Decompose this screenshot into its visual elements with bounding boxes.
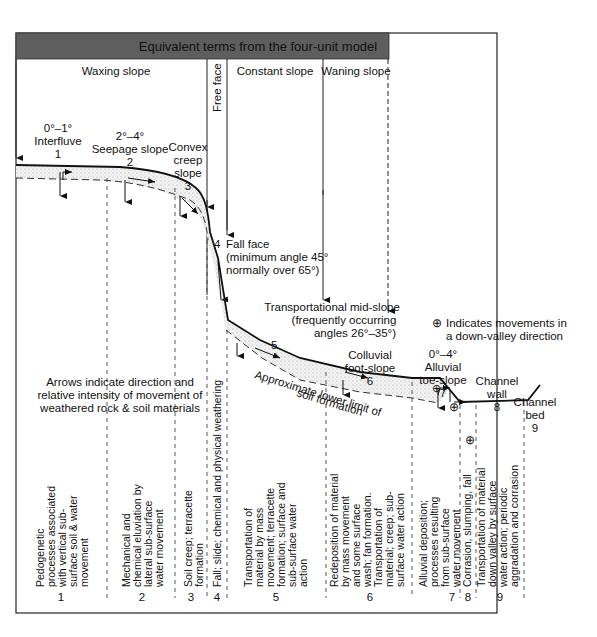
- header-title: Equivalent terms from the four-unit mode…: [139, 39, 378, 54]
- svg-text:Interfluve: Interfluve: [34, 135, 81, 147]
- svg-text:3: 3: [188, 591, 194, 603]
- svg-text:9: 9: [532, 422, 538, 434]
- svg-text:aggradation and corrasion: aggradation and corrasion: [508, 465, 520, 587]
- svg-text:Colluvial: Colluvial: [348, 349, 391, 361]
- svg-text:9: 9: [497, 591, 503, 603]
- svg-text:8: 8: [494, 401, 500, 413]
- svg-text:Arrows indicate direction and: Arrows indicate direction and: [46, 376, 194, 388]
- svg-text:Fall face: Fall face: [226, 238, 269, 250]
- svg-text:toe-slope: toe-slope: [419, 374, 466, 386]
- svg-text:Alluvial: Alluvial: [425, 361, 461, 373]
- svg-text:slope: slope: [174, 167, 202, 179]
- svg-text:2°–4°: 2°–4°: [116, 130, 144, 142]
- svg-text:wall: wall: [486, 388, 507, 400]
- svg-text:creep: creep: [174, 154, 203, 166]
- svg-text:(minimum angle 45°: (minimum angle 45°: [226, 251, 328, 263]
- svg-text:2: 2: [139, 591, 145, 603]
- svg-text:angles 26°–35°): angles 26°–35°): [314, 327, 396, 339]
- svg-text:weathered rock & soil material: weathered rock & soil materials: [39, 402, 200, 414]
- svg-text:surface water action: surface water action: [394, 493, 406, 587]
- svg-text:1: 1: [55, 148, 61, 160]
- svg-text:0°–1°: 0°–1°: [44, 122, 72, 134]
- svg-text:formation: formation: [193, 543, 205, 587]
- header-bar: Equivalent terms from the four-unit mode…: [16, 33, 389, 59]
- down-valley-legend-symbol: ⊕: [432, 317, 442, 329]
- svg-text:4: 4: [214, 591, 221, 603]
- svg-text:(frequently occurring: (frequently occurring: [292, 314, 397, 326]
- unit-numbers: 1 2 3 4 5 6 7 8 9: [58, 591, 503, 603]
- svg-text:5: 5: [273, 591, 279, 603]
- unit-constant-slope: Constant slope: [237, 65, 314, 77]
- svg-text:Convex: Convex: [169, 141, 208, 153]
- svg-text:relative intensity of movement: relative intensity of movement of: [38, 389, 204, 401]
- svg-text:Channel: Channel: [514, 396, 557, 408]
- svg-text:4: 4: [214, 238, 221, 250]
- svg-text:0°–4°: 0°–4°: [429, 348, 457, 360]
- svg-text:a down-valley direction: a down-valley direction: [446, 330, 563, 342]
- svg-text:7: 7: [449, 591, 455, 603]
- svg-text:Transportational mid-slope: Transportational mid-slope: [264, 301, 400, 313]
- svg-text:Channel: Channel: [476, 375, 519, 387]
- svg-text:8: 8: [465, 591, 471, 603]
- svg-text:Corrasion, slumping, fall: Corrasion, slumping, fall: [461, 474, 473, 587]
- svg-text:foot-slope: foot-slope: [345, 362, 396, 374]
- svg-text:6: 6: [367, 591, 373, 603]
- svg-text:2: 2: [127, 156, 133, 168]
- svg-text:3: 3: [185, 180, 191, 192]
- svg-text:6: 6: [367, 375, 373, 387]
- svg-text:1: 1: [58, 591, 64, 603]
- svg-text:bed: bed: [525, 409, 544, 421]
- svg-text:normally over 65°): normally over 65°): [226, 264, 320, 276]
- svg-text:Indicates movements in: Indicates movements in: [446, 317, 567, 329]
- unit-free-face: Free face: [211, 63, 223, 112]
- svg-text:water movement: water movement: [153, 509, 165, 588]
- svg-text:movement: movement: [78, 538, 90, 587]
- svg-text:⊕: ⊕: [465, 434, 475, 446]
- svg-text:7: 7: [440, 387, 446, 399]
- unit-waxing-slope: Waxing slope: [82, 65, 151, 77]
- svg-text:Seepage slope: Seepage slope: [92, 143, 169, 155]
- header-arrows: [16, 59, 388, 311]
- svg-text:Fall; slide; chemical and phys: Fall; slide; chemical and physical weath…: [211, 380, 223, 587]
- svg-text:⊕: ⊕: [449, 401, 459, 413]
- svg-text:5: 5: [271, 339, 277, 351]
- unit-waning-slope: Waning slope: [321, 65, 390, 77]
- hillslope-nine-unit-diagram: Equivalent terms from the four-unit mode…: [0, 0, 597, 637]
- svg-text:action: action: [297, 559, 309, 587]
